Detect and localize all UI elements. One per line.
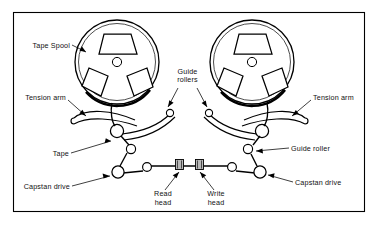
right-spool-cutout-top: [234, 34, 272, 54]
tape-right-capstan-to-guide: [251, 154, 257, 166]
right-lower-guide-roller: [243, 144, 252, 153]
label-guide-rollers-line2: rollers: [177, 75, 198, 84]
arrowhead-capstan-drive-right: [268, 173, 275, 178]
arrowhead-guide-rollers-right: [202, 100, 207, 107]
arrowhead-write-head: [200, 172, 206, 178]
read-head: [176, 160, 184, 170]
label-read-head-line2: head: [155, 198, 172, 207]
arrowhead-guide-roller-right: [256, 148, 263, 153]
tape-lower-roller-to-capstan: [120, 153, 127, 166]
tape-drive-diagram: Tape Spool Tension arm Guide rollers Ten…: [0, 0, 378, 227]
right-tension-arm-cap: [305, 118, 308, 124]
label-write-head-line2: head: [208, 198, 225, 207]
tape-right-guide-to-pivot: [253, 136, 260, 145]
left-tape-spool: [75, 20, 159, 106]
label-capstan-drive-right: Capstan drive: [295, 178, 341, 187]
arrowhead-guide-rollers-left: [168, 100, 174, 107]
label-tension-arm-right: Tension arm: [313, 93, 354, 102]
arrowhead-read-head: [173, 172, 179, 178]
label-guide-roller-right: Guide roller: [291, 144, 330, 153]
right-head-guide-roller: [228, 163, 237, 172]
left-head-guide-roller: [143, 163, 152, 172]
left-spool-cutout-top: [99, 34, 137, 54]
tape-right-pivot-to-spool: [264, 103, 268, 126]
right-tension-arm-edge-lower: [242, 119, 305, 126]
tape-pivot-to-lower-roller: [121, 136, 129, 145]
write-head: [196, 160, 204, 170]
left-spool-hub: [112, 57, 121, 66]
arrowhead-tape: [105, 138, 111, 143]
right-spool-hub: [247, 57, 256, 66]
right-tension-pivot: [255, 124, 268, 137]
tape-right-head-roller-to-capstan: [236, 171, 255, 173]
left-tension-arm-edge-lower: [74, 119, 137, 126]
left-tension-arm-cap: [71, 118, 74, 124]
label-capstan-drive-left: Capstan drive: [24, 182, 70, 191]
left-capstan-drive: [112, 166, 124, 178]
right-tension-arm-link-lower: [204, 117, 255, 140]
left-tension-arm-link-lower: [124, 117, 175, 140]
left-tension-arm: [71, 111, 175, 140]
right-tape-spool: [210, 20, 294, 106]
arrowhead-capstan-drive-left: [103, 174, 110, 179]
tape-drive-illustration: Tape Spool Tension arm Guide rollers Ten…: [0, 0, 378, 227]
left-guide-roller: [166, 109, 173, 116]
left-lower-guide-roller: [126, 144, 135, 153]
tape-left-capstan-to-head-roller: [123, 171, 143, 173]
label-tension-arm-left: Tension arm: [25, 93, 66, 102]
right-capstan-drive: [254, 166, 266, 178]
label-tape: Tape: [53, 149, 69, 158]
label-tape-spool: Tape Spool: [33, 41, 71, 50]
left-tension-pivot: [110, 124, 123, 137]
right-guide-roller-upper: [205, 109, 212, 116]
